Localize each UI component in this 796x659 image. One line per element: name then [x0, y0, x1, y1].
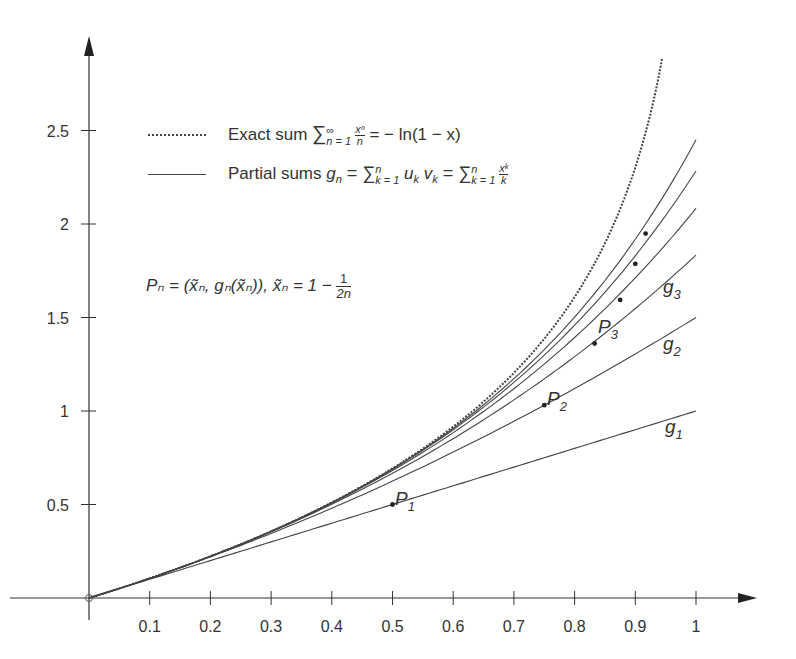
y-tick-label: 0.5 — [47, 497, 69, 514]
y-axis-arrow-icon — [84, 36, 94, 56]
solid-line-swatch — [148, 174, 206, 175]
point-p5 — [633, 261, 638, 266]
point-p3 — [592, 341, 597, 346]
x-tick-label: 0.2 — [199, 618, 221, 635]
x-tick-label: 0.1 — [139, 618, 161, 635]
partial-sum-curve-g6 — [89, 140, 696, 598]
y-tick-label: 2.5 — [47, 123, 69, 140]
y-tick-label: 2 — [60, 216, 69, 233]
x-tick-label: 0.7 — [503, 618, 525, 635]
chart-canvas: 0.10.20.30.40.50.60.70.80.91 0.511.522.5… — [0, 0, 796, 659]
point-p6 — [643, 231, 648, 236]
legend-partial: Partial sums gn = ∑nk = 1 uk vk = ∑nk = … — [148, 163, 508, 186]
legend-exact: Exact sum ∑∞n = 1xⁿn = − ln(1 − x) — [148, 122, 461, 147]
pn-formula: Pₙ = (x̃ₙ, gₙ(x̃ₙ)), x̃ₙ = 1 − 12n — [146, 272, 351, 301]
y-tick-label: 1 — [60, 403, 69, 420]
label-p1: P1 — [395, 488, 415, 514]
label-g2: g2 — [663, 333, 682, 359]
y-axis — [84, 36, 94, 620]
partial-sum-curve-g4 — [89, 208, 696, 598]
point-p2 — [542, 403, 547, 408]
legend-exact-label: Exact sum ∑∞n = 1xⁿn = − ln(1 − x) — [228, 122, 461, 147]
partial-sum-curve-g3 — [89, 255, 696, 598]
x-axis — [10, 593, 757, 603]
x-tick-label: 0.8 — [563, 618, 585, 635]
dashed-line-swatch — [148, 134, 206, 136]
point-p4 — [618, 298, 623, 303]
label-p3: P3 — [598, 316, 619, 342]
x-axis-arrow-icon — [738, 593, 757, 603]
partial-sum-curve-g5 — [89, 171, 696, 598]
x-tick-label: 0.4 — [321, 618, 343, 635]
x-tick-label: 0.6 — [442, 618, 464, 635]
label-g1: g1 — [665, 416, 683, 442]
x-tick-label: 0.5 — [381, 618, 403, 635]
x-tick-label: 0.3 — [260, 618, 282, 635]
label-p2: P2 — [547, 388, 568, 414]
y-tick-label: 1.5 — [47, 310, 69, 327]
legend-partial-label: Partial sums gn = ∑nk = 1 uk vk = ∑nk = … — [228, 163, 508, 186]
label-g3: g3 — [663, 276, 682, 302]
x-tick-label: 0.9 — [624, 618, 646, 635]
x-tick-label: 1 — [692, 618, 701, 635]
partial-sum-curve-g2 — [89, 318, 696, 599]
